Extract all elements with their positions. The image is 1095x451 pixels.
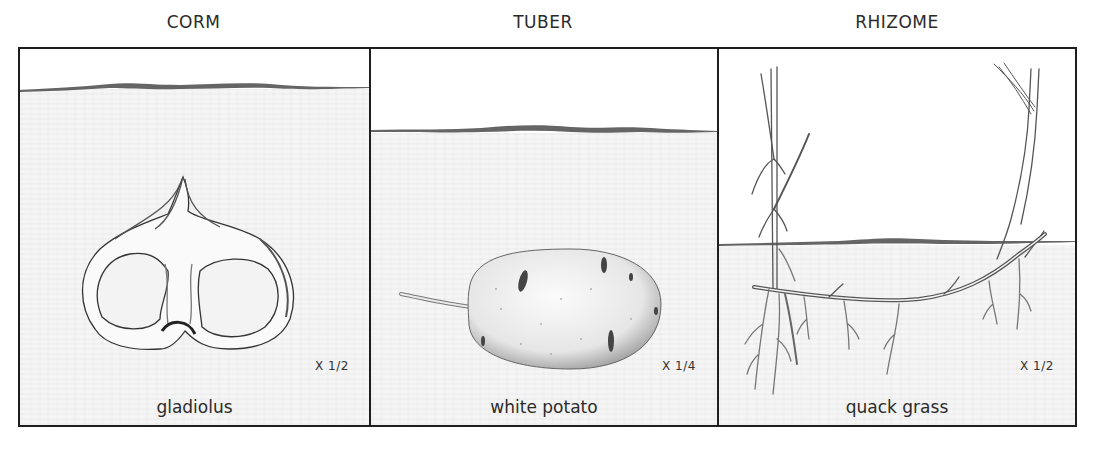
panel-title-tuber: TUBER xyxy=(369,12,717,32)
plant-name-label: white potato xyxy=(371,397,717,417)
panel-rhizome: X 1/2 quack grass xyxy=(719,49,1075,425)
scale-label: X 1/2 xyxy=(1020,359,1054,373)
plant-name-label: gladiolus xyxy=(20,397,369,417)
panel-tuber: X 1/4 white potato xyxy=(371,49,717,425)
scale-label: X 1/2 xyxy=(315,359,349,373)
scale-label: X 1/4 xyxy=(662,359,696,373)
panel-corm: X 1/2 gladiolus xyxy=(20,49,369,425)
panel-title-corm: CORM xyxy=(18,12,369,32)
diagram-frame: X 1/2 gladiolus xyxy=(18,47,1077,427)
panel-title-rhizome: RHIZOME xyxy=(717,12,1077,32)
plant-name-label: quack grass xyxy=(719,397,1075,417)
